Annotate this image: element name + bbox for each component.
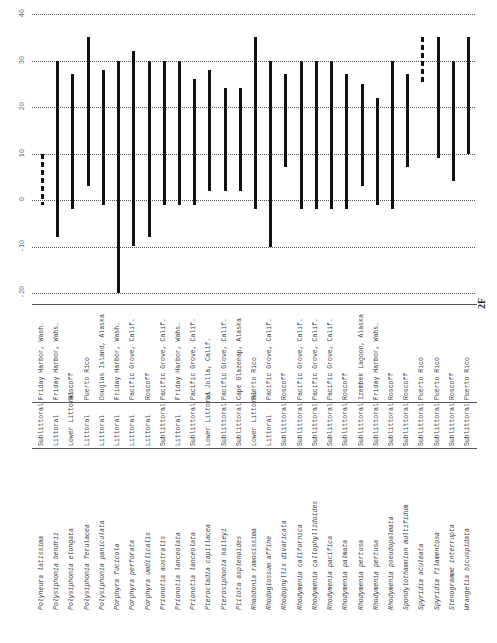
locality-cell: Puerto Rico	[416, 308, 428, 400]
range-bar	[239, 88, 242, 190]
y-tick-label: -10	[18, 236, 26, 256]
habitat-cell: Sublittoral	[279, 406, 291, 446]
species-cell: Polysiphonia paniculata	[97, 460, 109, 610]
gridline	[32, 293, 475, 294]
locality-cell: Puerto Rico	[82, 308, 94, 400]
species-cell: Prionotia lanceolata	[188, 460, 200, 610]
locality-cell: Pacific Grove, Calif.	[264, 308, 276, 400]
species-cell: Rhodymenia pertusa	[371, 460, 383, 610]
locality-cell: Pacific Grove, Calif.	[310, 308, 322, 400]
species-cell: Rhodymenia palmata	[340, 460, 352, 610]
species-cell: Spondylothamnion multifidum	[401, 460, 413, 610]
species-cell: Rhodymenia pseudopalmata	[386, 460, 398, 610]
range-bar	[193, 79, 196, 205]
range-bar	[254, 37, 257, 209]
habitat-cell: Sublittoral	[386, 406, 398, 446]
range-bar	[330, 61, 333, 210]
habitat-cell: Sublittoral	[371, 406, 383, 446]
habitat-cell: Sublittoral	[462, 406, 474, 446]
locality-cell: Roscoff	[66, 308, 78, 400]
species-cell: Pterocladia capillacea	[203, 460, 215, 610]
range-bar	[224, 88, 227, 190]
species-cell: Ptilota asplenoides	[234, 460, 246, 610]
range-bar	[41, 154, 44, 205]
habitat-cell: Sublittoral	[36, 406, 48, 446]
species-cell: Polysiphonia ferulacea	[82, 460, 94, 610]
page-number: 2F	[476, 298, 487, 309]
species-cell: Porphyra umbilicalis	[143, 460, 155, 610]
habitat-cell: Sublittoral	[356, 406, 368, 446]
range-bar	[437, 37, 440, 158]
range-bar	[315, 61, 318, 210]
range-bar	[452, 61, 455, 182]
y-tick-label: 40	[18, 3, 26, 23]
species-cell: Rhodoglossum affine	[264, 460, 276, 610]
habitat-cell: Littoral	[143, 406, 155, 446]
locality-cell: Roscoff	[386, 308, 398, 400]
species-cell: Polyneura latissima	[36, 460, 48, 610]
habitat-cell: Littoral	[97, 406, 109, 446]
range-bar	[87, 37, 90, 186]
range-bar	[269, 61, 272, 247]
species-cell: Wrangelia bicuspidata	[462, 460, 474, 610]
habitat-cell: Littoral	[264, 406, 276, 446]
habitat-cell: Littoral	[112, 406, 124, 446]
species-cell: Rhodymenia pertusa	[356, 460, 368, 610]
species-cell: Rhabdonia ramosissima	[249, 460, 261, 610]
locality-cell: Friday Harbor, Wahs.	[51, 308, 63, 400]
divider	[32, 448, 477, 449]
range-bar	[148, 61, 151, 238]
species-cell: Rhodymenia callophyllidoides	[310, 460, 322, 610]
locality-cell: Roscoff	[447, 308, 459, 400]
range-bar	[406, 74, 409, 167]
range-bar	[178, 61, 181, 205]
habitat-cell: Sublittoral	[295, 406, 307, 446]
gridline	[32, 247, 475, 248]
y-tick-label: -20	[18, 282, 26, 302]
locality-cell: Pacific Grove, Calif.	[127, 308, 139, 400]
habitat-cell: Sublittoral	[340, 406, 352, 446]
habitat-cell: Sublittoral	[188, 406, 200, 446]
habitat-cell: Lower Littoral	[203, 406, 215, 446]
habitat-cell: Lower Littoral	[66, 406, 78, 446]
range-bar	[467, 37, 470, 153]
species-cell: Prionotia australis	[158, 460, 170, 610]
y-tick-label: 0	[18, 189, 26, 209]
habitat-cell: Littoral	[51, 406, 63, 446]
habitat-cell: Sublittoral	[325, 406, 337, 446]
species-cell: Polysiphonia bendrii	[51, 460, 63, 610]
gridline	[32, 14, 475, 15]
range-bar	[117, 61, 120, 294]
locality-cell: Cape Glazenap, Alaska	[234, 308, 246, 400]
locality-cell: Puerto Rico	[432, 308, 444, 400]
range-bar	[376, 98, 379, 205]
species-cell: Rhodymenia californica	[295, 460, 307, 610]
species-cell: Polysiphonia elongata	[66, 460, 78, 610]
range-bar	[102, 70, 105, 205]
y-tick-label: 30	[18, 50, 26, 70]
locality-cell: Puerto Rico	[462, 308, 474, 400]
range-bar	[421, 37, 424, 84]
locality-cell: Roscoff	[279, 308, 291, 400]
range-bar	[300, 61, 303, 210]
y-tick-label: 10	[18, 143, 26, 163]
species-cell: Spyridia aculeata	[416, 460, 428, 610]
species-cell: Rhodymenia pacifica	[325, 460, 337, 610]
habitat-cell: Littoral	[173, 406, 185, 446]
habitat-cell: Sublittoral	[234, 406, 246, 446]
locality-cell: Roscoff	[143, 308, 155, 400]
habitat-cell: Lower Littoral	[249, 406, 261, 446]
locality-cell: Friday Harbor, Wash.	[112, 308, 124, 400]
species-cell: Pterosiphonia baileyi	[219, 460, 231, 610]
habitat-cell: Sublittoral	[219, 406, 231, 446]
species-cell: Prionotia lanceolata	[173, 460, 185, 610]
habitat-cell: Sublittoral	[158, 406, 170, 446]
locality-cell: Puerto Rico	[249, 308, 261, 400]
locality-cell: Izembek Lagoon, Alaska	[356, 308, 368, 400]
range-bar	[132, 51, 135, 246]
species-cell: Porphyra fucicola	[112, 460, 124, 610]
range-bar	[71, 74, 74, 209]
locality-cell: Pacific Grove, Calif.	[295, 308, 307, 400]
habitat-cell: Sublittoral	[401, 406, 413, 446]
locality-cell: Friday Harbor, Wahs.	[173, 308, 185, 400]
